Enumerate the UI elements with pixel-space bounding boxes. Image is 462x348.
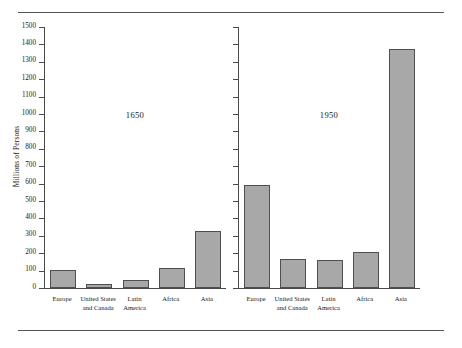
x-axis-label-1650-4: Asia bbox=[183, 295, 231, 304]
top-rule bbox=[18, 12, 444, 13]
bar-1650-1 bbox=[86, 284, 112, 288]
y-tick-label-1100: 1100 bbox=[6, 91, 36, 99]
x-axis-label-1950-4: Asia bbox=[377, 295, 425, 304]
y-tick-label-900: 900 bbox=[6, 126, 36, 134]
bottom-rule bbox=[18, 330, 444, 331]
x-axis-labels-1950: EuropeUnited States and CanadaLatin Amer… bbox=[238, 292, 420, 322]
bar-group-1950 bbox=[239, 27, 420, 288]
y-tick-label-1400: 1400 bbox=[6, 39, 36, 47]
y-tick-label-1300: 1300 bbox=[6, 56, 36, 64]
y-tick-label-500: 500 bbox=[6, 196, 36, 204]
figure: Millions of Persons 01002003004005006007… bbox=[0, 0, 462, 348]
bar-1950-3 bbox=[353, 252, 379, 288]
y-tick-label-1200: 1200 bbox=[6, 74, 36, 82]
y-tick-label-1500: 1500 bbox=[6, 22, 36, 30]
bar-1950-1 bbox=[280, 259, 306, 288]
y-tick-label-0: 0 bbox=[6, 283, 36, 291]
bar-1650-2 bbox=[123, 280, 149, 288]
y-tick-label-600: 600 bbox=[6, 178, 36, 186]
bar-1650-0 bbox=[50, 270, 76, 288]
y-tick-label-400: 400 bbox=[6, 213, 36, 221]
chart-panel-1650: 0100200300400500600700800900100011001200… bbox=[44, 24, 226, 324]
bar-1950-2 bbox=[317, 260, 343, 288]
bar-1950-0 bbox=[244, 185, 270, 288]
bar-1950-4 bbox=[389, 49, 415, 288]
y-tick-label-100: 100 bbox=[6, 265, 36, 273]
y-tick-label-700: 700 bbox=[6, 161, 36, 169]
y-tick-label-1000: 1000 bbox=[6, 109, 36, 117]
y-tick-label-800: 800 bbox=[6, 143, 36, 151]
y-tick-label-200: 200 bbox=[6, 248, 36, 256]
bar-group-1650 bbox=[45, 27, 226, 288]
bar-1650-3 bbox=[159, 268, 185, 288]
x-axis-labels-1650: EuropeUnited States and CanadaLatin Amer… bbox=[44, 292, 226, 322]
bar-1650-4 bbox=[195, 231, 221, 288]
y-tick-label-300: 300 bbox=[6, 230, 36, 238]
chart-panel-1950: 1950 EuropeUnited States and CanadaLatin… bbox=[238, 24, 420, 324]
y-tick-0 bbox=[233, 288, 239, 289]
y-tick-0: 0 bbox=[39, 288, 45, 289]
